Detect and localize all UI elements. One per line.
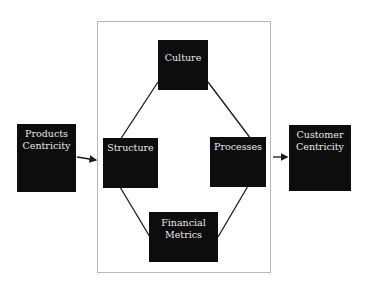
node-financial-metrics: Financial Metrics [149,212,218,262]
node-processes-label: Processes [210,141,266,153]
node-structure-label: Structure [103,142,158,154]
node-processes: Processes [210,137,266,187]
node-financial-metrics-line2: Metrics [149,229,218,241]
line-culture-processes [208,82,251,139]
node-culture-label: Culture [158,52,208,64]
arrow-products-to-frame [77,157,96,160]
node-culture: Culture [158,40,208,90]
node-products-centricity-line1: Products [17,128,76,140]
node-products-centricity-line2: Centricity [17,140,76,152]
node-products-centricity: Products Centricity [17,124,76,192]
node-customer-centricity: Customer Centricity [289,125,351,191]
node-customer-centricity-line1: Customer [289,129,351,141]
node-customer-centricity-line2: Centricity [289,141,351,153]
line-processes-financial [218,186,248,237]
node-structure: Structure [103,138,158,188]
line-structure-financial [120,187,150,237]
node-financial-metrics-line1: Financial [149,217,218,229]
line-culture-structure [120,82,158,140]
